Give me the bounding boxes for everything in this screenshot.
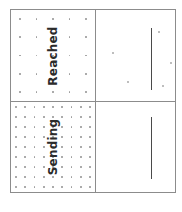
lattice-dot [52,106,54,108]
scatter-point [162,85,164,87]
lattice-dot [36,55,38,57]
panel-top-left: Reached [11,10,96,102]
panel-bottom-right [96,102,175,192]
lattice-dot [15,176,17,178]
lattice-dot [89,166,91,168]
lattice-dot [61,116,63,118]
lattice-dot [15,126,17,128]
lattice-dot [43,126,45,128]
lattice-dot [19,18,21,20]
lattice-dot [24,126,26,128]
lattice-dot [43,166,45,168]
lattice-dot [85,73,87,75]
lattice-dot [34,136,36,138]
lattice-dot [89,126,91,128]
lattice-dot [36,36,38,38]
lattice-dot [34,156,36,158]
lattice-dot [24,136,26,138]
panel-label-reached: Reached [47,26,59,85]
lattice-dot [80,146,82,148]
lattice-dot [61,106,63,108]
lattice-dot [15,136,17,138]
lattice-dot [71,116,73,118]
lattice-dot [19,36,21,38]
lattice-dot [52,91,54,93]
lattice-dot [80,186,82,188]
lattice-dot [43,176,45,178]
lattice-dot [43,146,45,148]
lattice-dot [89,156,91,158]
lattice-dot [52,176,54,178]
lattice-dot [61,166,63,168]
lattice-dot [15,116,17,118]
lattice-dot [71,136,73,138]
vertical-rule-reached [151,28,152,90]
lattice-dot [19,55,21,57]
lattice-dot [61,146,63,148]
vertical-rule-sending [151,117,152,179]
panel-label-sending: Sending [47,119,59,176]
lattice-dot [69,73,71,75]
lattice-dot [80,136,82,138]
lattice-dot [85,55,87,57]
lattice-dot [36,73,38,75]
lattice-dot [19,73,21,75]
lattice-dot [15,106,17,108]
lattice-dot [61,186,63,188]
lattice-dot [24,186,26,188]
lattice-dot [71,146,73,148]
figure-root: Reached Sending [0,0,182,212]
lattice-dot [89,176,91,178]
lattice-dot [61,176,63,178]
lattice-dot [69,36,71,38]
lattice-dot [34,116,36,118]
lattice-dot [80,176,82,178]
lattice-dot [80,156,82,158]
lattice-dot [85,91,87,93]
lattice-dot [61,126,63,128]
lattice-dot [36,91,38,93]
lattice-dot [36,18,38,20]
lattice-dot [61,156,63,158]
lattice-dot [89,186,91,188]
lattice-dot [80,116,82,118]
lattice-dot [71,186,73,188]
lattice-dot [43,186,45,188]
lattice-dot [71,166,73,168]
lattice-dot [15,166,17,168]
lattice-dot [71,176,73,178]
lattice-dot [52,186,54,188]
scatter-point [170,62,172,64]
scatter-point [112,52,114,54]
panel-grid: Reached Sending [10,9,176,193]
lattice-dot [43,156,45,158]
lattice-dot [15,156,17,158]
lattice-dot [85,36,87,38]
lattice-dot [24,106,26,108]
lattice-dot [34,186,36,188]
scatter-point [127,81,129,83]
lattice-dot [71,126,73,128]
lattice-dot [34,166,36,168]
lattice-dot [24,166,26,168]
lattice-dot [52,18,54,20]
lattice-dot [85,18,87,20]
lattice-dot [71,156,73,158]
lattice-dot [34,106,36,108]
lattice-dot [34,126,36,128]
lattice-dot [89,116,91,118]
scatter-field-reached [96,10,175,101]
panel-top-right [96,10,175,102]
lattice-dot [69,18,71,20]
lattice-dot [43,116,45,118]
lattice-dot [71,106,73,108]
lattice-dot [89,146,91,148]
lattice-dot [69,55,71,57]
lattice-dot [34,176,36,178]
lattice-dot [89,136,91,138]
lattice-dot [43,106,45,108]
lattice-dot [24,116,26,118]
panel-bottom-left: Sending [11,102,96,192]
lattice-dot [89,106,91,108]
lattice-dot [34,146,36,148]
